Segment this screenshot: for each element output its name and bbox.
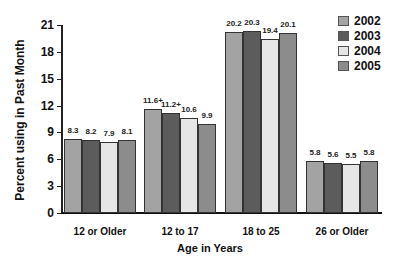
bar-2005 (198, 124, 216, 213)
bar-2004 (100, 142, 118, 213)
y-tick-label: 6 (47, 152, 54, 166)
bar-value-label: 20.1 (280, 20, 296, 29)
bar-2002 (64, 139, 82, 213)
x-axis-label: Age in Years (177, 242, 243, 254)
y-tick (57, 186, 62, 187)
y-tick-label: 12 (41, 99, 54, 113)
legend-label: 2004 (354, 44, 381, 58)
y-tick (57, 132, 62, 133)
bar-2005 (118, 140, 136, 213)
y-tick-label: 0 (47, 206, 54, 220)
bar-value-label: 8.2 (85, 127, 96, 136)
y-tick (57, 52, 62, 53)
category-label: 18 to 25 (242, 226, 279, 237)
bar-2003 (82, 140, 100, 213)
bar-value-label: 5.8 (309, 148, 320, 157)
bar-value-label: 5.8 (363, 148, 374, 157)
bar-value-label: 10.6 (181, 105, 197, 114)
category-label: 26 or Older (316, 226, 369, 237)
bar-value-label: 20.3 (244, 18, 260, 27)
bar-2003 (324, 163, 342, 213)
legend-item-2002: 2002 (338, 13, 381, 28)
bar-2004 (342, 164, 360, 213)
bar-2005 (279, 33, 297, 213)
bar-value-label: 11.2+ (161, 100, 181, 109)
bar-2003 (243, 31, 261, 213)
legend: 2002200320042005 (338, 13, 381, 73)
bar-2002 (306, 161, 324, 213)
bar-value-label: 5.5 (345, 151, 356, 160)
category-label: 12 or Older (74, 226, 127, 237)
bar-value-label: 5.6 (327, 150, 338, 159)
bar-2004 (180, 118, 198, 213)
legend-swatch-icon (338, 46, 349, 56)
bar-value-label: 19.4 (262, 26, 278, 35)
bar-2004 (261, 39, 279, 213)
y-tick (57, 79, 62, 80)
y-tick (57, 106, 62, 107)
legend-item-2003: 2003 (338, 28, 381, 43)
y-tick-label: 15 (41, 72, 54, 86)
bar-2002 (225, 32, 243, 213)
legend-label: 2002 (354, 14, 381, 28)
y-axis-label: Percent using in Past Month (13, 39, 27, 200)
bar-2002 (144, 109, 162, 213)
y-tick-label: 9 (47, 125, 54, 139)
bar-value-label: 20.2 (226, 19, 242, 28)
legend-label: 2005 (354, 59, 381, 73)
bar-value-label: 8.1 (121, 127, 132, 136)
legend-swatch-icon (338, 31, 349, 41)
bar-value-label: 9.9 (201, 111, 212, 120)
legend-item-2004: 2004 (338, 43, 381, 58)
y-tick (57, 159, 62, 160)
bar-2003 (162, 113, 180, 213)
legend-swatch-icon (338, 61, 349, 71)
category-label: 12 to 17 (161, 226, 198, 237)
bar-value-label: 8.3 (67, 126, 78, 135)
y-tick-label: 21 (41, 18, 54, 32)
bar-2005 (360, 161, 378, 213)
y-tick (57, 213, 62, 214)
legend-item-2005: 2005 (338, 58, 381, 73)
y-tick (57, 25, 62, 26)
y-tick-label: 3 (47, 179, 54, 193)
legend-swatch-icon (338, 16, 349, 26)
y-tick-label: 18 (41, 45, 54, 59)
bar-value-label: 7.9 (103, 129, 114, 138)
legend-label: 2003 (354, 29, 381, 43)
bar-value-label: 11.6+ (143, 96, 163, 105)
